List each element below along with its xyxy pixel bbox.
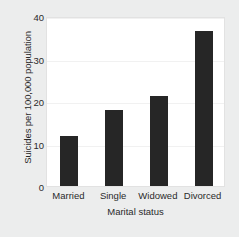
- y-tick-label-10: 10: [22, 139, 44, 150]
- x-tick-label-widowed: Widowed: [138, 190, 177, 201]
- x-tick-label-divorced: Divorced: [184, 190, 222, 201]
- y-axis-tick-labels: 40 30 20 10 0: [20, 0, 44, 237]
- x-axis-label: Marital status: [46, 206, 225, 217]
- bar-widowed: [150, 96, 168, 186]
- x-axis-tick-labels: Married Single Widowed Divorced: [46, 190, 225, 204]
- bar-married: [60, 136, 78, 186]
- y-tick-label-40: 40: [22, 12, 44, 23]
- bar-single: [105, 110, 123, 186]
- bar-chart-figure: Suicides per 100,000 population 40 30 20…: [0, 0, 239, 237]
- y-tick-label-0: 0: [22, 182, 44, 193]
- bar-series: [47, 18, 224, 186]
- y-tick-label-20: 20: [22, 97, 44, 108]
- bar-divorced: [195, 31, 213, 186]
- x-tick-label-married: Married: [52, 190, 84, 201]
- x-tick-label-single: Single: [100, 190, 126, 201]
- plot-area: [46, 17, 225, 187]
- y-tick-label-30: 30: [22, 54, 44, 65]
